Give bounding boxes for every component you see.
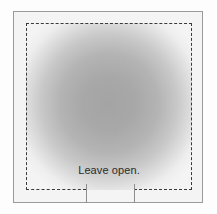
instruction-caption: Leave open. xyxy=(26,164,192,177)
dashed-edge-top xyxy=(26,23,192,24)
diagram-canvas: Leave open. xyxy=(0,0,217,214)
fold-tick-right xyxy=(134,184,135,203)
dashed-edge-bottom-left xyxy=(26,189,86,190)
dashed-edge-bottom-right xyxy=(134,189,192,190)
fold-tick-left xyxy=(86,184,87,203)
